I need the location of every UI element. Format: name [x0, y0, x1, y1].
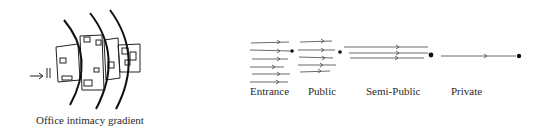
zone-label-semi-public: Semi-Public: [366, 85, 420, 97]
public-arrows: [298, 39, 336, 73]
entrance-arrows: [250, 40, 290, 84]
semi-public-arrows: [344, 45, 428, 60]
private-arrow: [441, 54, 516, 58]
zone-label-entrance: Entrance: [250, 85, 289, 97]
zone-label-public: Public: [308, 85, 336, 97]
left-figure-caption: Office intimacy gradient: [36, 114, 144, 126]
zone-label-private: Private: [451, 85, 482, 97]
zone-dots: [290, 49, 521, 58]
